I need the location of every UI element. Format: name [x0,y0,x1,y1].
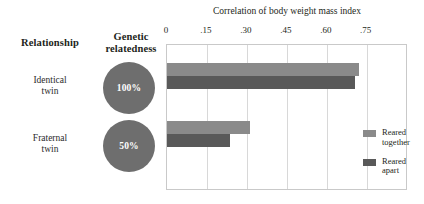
bar-identical-twin-reared-together [167,63,359,76]
bar-fraternal-twin-reared-apart [167,134,230,147]
legend-swatch-reared-together [363,130,376,137]
column-header-genetic-relatedness: Genetic relatedness [93,31,169,55]
column-header-relationship: Relationship [8,37,92,49]
x-tick-3: .45 [280,25,291,35]
relatedness-circle-identical-twin: 100% [103,62,155,114]
row-label-fraternal-twin: Fraternal twin [8,133,92,155]
x-tick-2: .30 [240,25,251,35]
x-tick-4: .60 [320,25,331,35]
relatedness-circle-fraternal-twin: 50% [103,120,155,172]
x-tick-5: .75 [360,25,371,35]
chart-title: Correlation of body weight mass index [166,6,408,16]
plot-area: Reared together Reared apart [166,44,407,190]
row-label-identical-twin: Identical twin [8,75,92,97]
legend-item-reared-apart: Reared apart [363,157,410,177]
figure-root: Relationship Genetic relatedness Identic… [0,0,424,204]
bar-identical-twin-reared-apart [167,76,355,89]
chart-legend: Reared together Reared apart [363,128,410,185]
legend-item-reared-together: Reared together [363,128,410,148]
legend-label-reared-apart: Reared apart [382,157,406,177]
bar-fraternal-twin-reared-together [167,121,250,134]
legend-label-reared-together: Reared together [382,128,410,148]
x-tick-1: .15 [200,25,211,35]
x-tick-0: 0 [164,25,169,35]
x-axis-tick-labels: 0.15.30.45.60.75 [166,25,408,39]
legend-swatch-reared-apart [363,159,376,166]
